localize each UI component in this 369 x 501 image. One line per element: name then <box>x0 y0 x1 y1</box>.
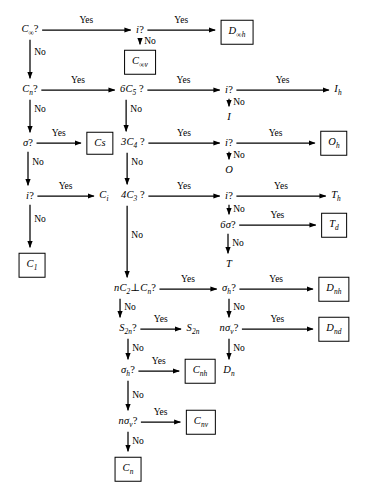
terminal-node-t_oh: Oh <box>320 131 347 156</box>
terminal-node-t_ci: Ci <box>99 190 108 203</box>
edge-label-no-2: No <box>144 37 156 47</box>
edge-label-no-33: No <box>132 391 144 401</box>
flowchart-canvas: C∞?i?D∞hC∞vCn?6C5 ?i?IhIσ?Cs3C4 ?i?OhOi?… <box>0 0 369 501</box>
terminal-node-t_cnv: Cnv <box>186 410 216 435</box>
edge-label-yes-27: Yes <box>270 315 284 325</box>
edge-label-no-23: No <box>131 231 143 241</box>
decision-node-q_4c3: 4C3 ? <box>121 190 145 203</box>
edge-label-yes-4: Yes <box>71 76 85 86</box>
terminal-node-t_dinfh: D∞h <box>221 20 254 45</box>
decision-node-q_sigmah_1: σh? <box>222 283 236 296</box>
edge-label-no-28: No <box>233 344 245 354</box>
terminal-node-t_cs: Cs <box>86 132 113 155</box>
edge-label-yes-24: Yes <box>181 275 195 285</box>
edge-label-no-19: No <box>233 205 245 215</box>
edge-label-yes-32: Yes <box>152 357 166 367</box>
edge-label-yes-1: Yes <box>174 16 188 26</box>
edge-label-yes-25: Yes <box>269 275 283 285</box>
edge-label-yes-6: Yes <box>276 76 290 86</box>
edge-label-yes-17: Yes <box>177 182 191 192</box>
edge-label-no-21: No <box>232 239 244 249</box>
decision-node-q_nsigmav_1: nσv? <box>220 323 239 336</box>
decision-node-q_3c4: 3C4 ? <box>121 137 145 150</box>
decision-node-q_nsigmav_2: nσv? <box>119 416 138 429</box>
decision-node-q_sigma: σ? <box>23 138 33 149</box>
edge-label-no-22: No <box>34 215 46 225</box>
terminal-node-t_dnh: Dnh <box>318 277 349 302</box>
decision-node-q_s2n: S2n? <box>119 323 137 336</box>
edge-label-no-13: No <box>233 151 245 161</box>
terminal-node-t_td: Td <box>321 213 347 238</box>
edge-label-no-8: No <box>34 105 46 115</box>
terminal-node-t_t: T <box>226 259 232 270</box>
decision-node-q_i_5: i? <box>225 191 233 202</box>
edge-label-no-26: No <box>233 303 245 313</box>
edge-label-yes-34: Yes <box>154 408 168 418</box>
decision-node-q_6sigma: 6σ? <box>220 220 235 231</box>
decision-node-q_nc2: nC2⊥Cn? <box>114 283 156 296</box>
decision-node-q_6c5: 6C5 ? <box>120 84 144 97</box>
terminal-node-t_th: Th <box>331 190 341 203</box>
terminal-node-t_c1: C1 <box>19 253 46 278</box>
edge-label-no-16: No <box>131 158 143 168</box>
terminal-node-t_cn: Cn <box>115 457 142 482</box>
terminal-node-t_o: O <box>225 165 233 176</box>
edge-label-yes-20: Yes <box>270 211 284 221</box>
edge-label-no-10: No <box>130 105 142 115</box>
edge-label-no-14: No <box>32 158 44 168</box>
edge-label-no-35: No <box>132 437 144 447</box>
edge-label-yes-12: Yes <box>269 129 283 139</box>
edge-label-yes-18: Yes <box>274 182 288 192</box>
decision-node-q_i_1: i? <box>136 25 144 36</box>
edge-label-no-29: No <box>124 303 136 313</box>
decision-node-q_cinf: C∞? <box>21 24 38 37</box>
terminal-node-t_dnd: Dnd <box>318 317 349 342</box>
edge-label-yes-15: Yes <box>59 182 73 192</box>
edge-label-no-31: No <box>132 344 144 354</box>
terminal-node-t_ih: Ih <box>334 84 341 97</box>
terminal-node-t_dn: Dn <box>223 365 234 378</box>
edge-label-yes-5: Yes <box>177 76 191 86</box>
decision-node-q_i_2: i? <box>225 85 233 96</box>
edge-label-yes-30: Yes <box>154 315 168 325</box>
decision-node-q_i_4: i? <box>26 191 34 202</box>
decision-node-q_cn: Cn? <box>22 84 38 97</box>
terminal-node-t_cinfv: C∞v <box>124 50 156 75</box>
edge-label-yes-0: Yes <box>79 16 93 26</box>
decision-node-q_i_3: i? <box>225 138 233 149</box>
edge-label-yes-9: Yes <box>52 129 66 139</box>
edge-label-no-7: No <box>233 98 245 108</box>
edge-label-yes-11: Yes <box>177 129 191 139</box>
edge-label-no-3: No <box>34 48 46 58</box>
decision-node-q_sigmah_2: σh? <box>121 365 135 378</box>
terminal-node-t_s2n: S2n <box>187 323 200 336</box>
terminal-node-t_cnh: Cnh <box>185 359 216 384</box>
terminal-node-t_i: I <box>227 112 231 123</box>
